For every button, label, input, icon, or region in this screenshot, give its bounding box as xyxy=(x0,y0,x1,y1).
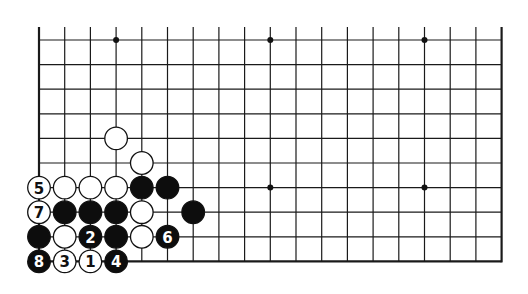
white-stone xyxy=(131,152,154,175)
black-stone xyxy=(131,176,154,199)
black-stone xyxy=(28,226,51,249)
black-stone: 2 xyxy=(79,226,102,249)
white-stone xyxy=(105,176,128,199)
black-stone: 6 xyxy=(156,226,179,249)
black-stone xyxy=(105,201,128,224)
go-board: 57268314 xyxy=(0,0,528,294)
black-stone-icon xyxy=(79,201,102,224)
move-number: 4 xyxy=(111,253,121,271)
move-number: 1 xyxy=(85,253,95,271)
white-stone-icon xyxy=(53,226,76,249)
black-stone xyxy=(182,201,205,224)
white-stone: 5 xyxy=(28,176,51,199)
white-stone-icon xyxy=(79,176,102,199)
white-stone: 7 xyxy=(28,201,51,224)
white-stone xyxy=(105,127,128,150)
black-stone-icon xyxy=(156,176,179,199)
black-stone xyxy=(105,226,128,249)
move-number: 8 xyxy=(34,253,44,271)
black-stone-icon xyxy=(105,201,128,224)
go-diagram: 57268314 xyxy=(0,0,528,294)
white-stone: 1 xyxy=(79,250,102,273)
black-stone xyxy=(156,176,179,199)
black-stone-icon xyxy=(131,176,154,199)
star-point-icon xyxy=(422,185,428,191)
white-stone xyxy=(53,176,76,199)
white-stone-icon xyxy=(131,152,154,175)
white-stone-icon xyxy=(131,201,154,224)
white-stone xyxy=(53,226,76,249)
black-stone-icon xyxy=(28,226,51,249)
move-number: 5 xyxy=(34,180,44,198)
black-stone-icon xyxy=(105,226,128,249)
move-number: 3 xyxy=(59,253,69,271)
white-stone xyxy=(131,201,154,224)
black-stone-icon xyxy=(53,201,76,224)
white-stone-icon xyxy=(131,226,154,249)
white-stone-icon xyxy=(105,176,128,199)
white-stone xyxy=(79,176,102,199)
black-stone xyxy=(53,201,76,224)
star-point-icon xyxy=(422,37,428,43)
black-stone xyxy=(79,201,102,224)
black-stone-icon xyxy=(182,201,205,224)
white-stone-icon xyxy=(53,176,76,199)
black-stone: 8 xyxy=(28,250,51,273)
star-point-icon xyxy=(267,37,273,43)
star-point-icon xyxy=(113,37,119,43)
white-stone: 3 xyxy=(53,250,76,273)
move-number: 2 xyxy=(85,229,95,247)
white-stone xyxy=(131,226,154,249)
black-stone: 4 xyxy=(105,250,128,273)
move-number: 7 xyxy=(34,204,44,222)
star-point-icon xyxy=(267,185,273,191)
move-number: 6 xyxy=(162,229,172,247)
white-stone-icon xyxy=(105,127,128,150)
